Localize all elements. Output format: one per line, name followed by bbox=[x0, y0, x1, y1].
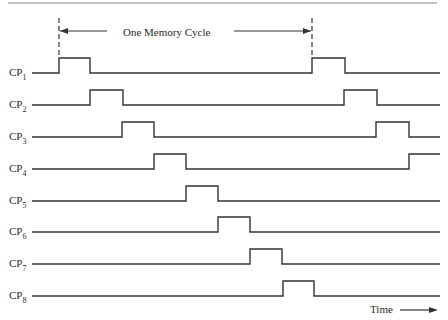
signal-label: CP5 bbox=[9, 194, 26, 210]
signal-cp7: CP7 bbox=[9, 249, 440, 273]
time-arrowhead-icon bbox=[429, 307, 438, 313]
cycle-label: One Memory Cycle bbox=[123, 26, 210, 38]
waveform bbox=[32, 217, 440, 232]
time-label: Time bbox=[370, 303, 393, 315]
time-axis-indicator: Time bbox=[370, 303, 438, 315]
signal-cp1: CP1 bbox=[9, 58, 440, 82]
waveform bbox=[32, 186, 440, 201]
waveform bbox=[32, 90, 440, 105]
signal-cp3: CP3 bbox=[9, 122, 440, 146]
signal-label: CP4 bbox=[9, 162, 26, 178]
signal-label: CP1 bbox=[9, 66, 26, 82]
signal-label: CP7 bbox=[9, 257, 26, 273]
signal-label: CP2 bbox=[9, 98, 26, 114]
signal-cp4: CP4 bbox=[9, 154, 440, 178]
memory-cycle-annotation: One Memory Cycle bbox=[59, 18, 312, 58]
arrowhead-right-icon bbox=[303, 28, 311, 34]
clock-pulse-signals: CP1CP2CP3CP4CP5CP6CP7CP8 bbox=[9, 58, 440, 305]
signal-label: CP3 bbox=[9, 130, 26, 146]
waveform bbox=[32, 281, 440, 296]
arrowhead-left-icon bbox=[60, 28, 68, 34]
waveform bbox=[32, 154, 440, 169]
waveform bbox=[32, 58, 440, 73]
waveform bbox=[32, 249, 440, 264]
signal-label: CP6 bbox=[9, 225, 26, 241]
waveform bbox=[32, 122, 440, 137]
signal-cp6: CP6 bbox=[9, 217, 440, 241]
signal-cp5: CP5 bbox=[9, 186, 440, 210]
timing-diagram: One Memory Cycle CP1CP2CP3CP4CP5CP6CP7CP… bbox=[0, 0, 448, 320]
signal-cp8: CP8 bbox=[9, 281, 440, 305]
signal-cp2: CP2 bbox=[9, 90, 440, 114]
signal-label: CP8 bbox=[9, 289, 26, 305]
